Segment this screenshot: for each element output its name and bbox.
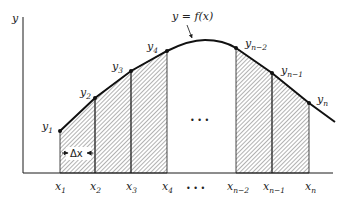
y-axis-label: y [11, 12, 19, 25]
x-axis-ellipsis: • • • [186, 184, 205, 193]
svg-text:Δx: Δx [70, 148, 83, 159]
curve-label-arrow-icon [187, 25, 192, 38]
svg-text:yn−1: yn−1 [280, 64, 303, 79]
svg-text:yn: yn [316, 93, 328, 108]
svg-text:x1: x1 [55, 180, 66, 195]
svg-text:x2: x2 [90, 180, 101, 195]
svg-text:xn: xn [305, 180, 316, 195]
svg-text:y3: y3 [111, 60, 123, 75]
x-labels: x1 x2 x3 x4 • • • xn−2 xn−1 xn [55, 180, 316, 195]
delta-x-indicator: Δx [62, 147, 93, 160]
trapezoid-rule-diagram: y = f(x) y Δx • • • y1 y2 y3 y4 yn−2 yn−… [0, 0, 348, 199]
curve-label: y = f(x) [171, 10, 213, 23]
svg-text:y1: y1 [41, 120, 53, 135]
svg-text:y2: y2 [79, 86, 91, 101]
svg-text:yn−2: yn−2 [244, 37, 267, 52]
trapezoids-right [236, 48, 309, 173]
svg-text:x4: x4 [162, 180, 173, 195]
svg-text:x3: x3 [126, 180, 137, 195]
svg-text:y4: y4 [146, 40, 158, 55]
svg-text:xn−2: xn−2 [227, 180, 249, 195]
middle-ellipsis: • • • [190, 116, 209, 125]
svg-text:xn−1: xn−1 [263, 180, 285, 195]
